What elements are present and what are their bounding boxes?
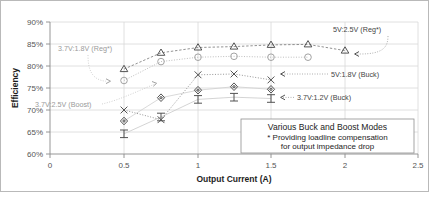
annotation-5V-1.8V-Buck-label: 5V:1.8V (Buck) — [331, 70, 379, 79]
annotation-3.7V-1.8V-Reg-arrow — [106, 79, 111, 84]
series-3.7V-1.8V-Reg — [121, 53, 312, 84]
x-tick-label-2.5: 2.5 — [412, 161, 424, 170]
marker-x-group — [121, 71, 275, 124]
x-tick-label-2: 2 — [343, 161, 348, 170]
y-tick-label-85: 85% — [27, 40, 43, 49]
note-box: Various Buck and Boost Modes * Providing… — [241, 119, 414, 153]
annotation-5V-2.5V-Reg-leader — [356, 36, 388, 54]
annotation-3.7V-2.5V-Boost-label: 3.7V:2.5V (Boost) — [35, 100, 91, 109]
y-tick-label-65: 65% — [27, 128, 43, 137]
x-tick-label-0: 0 — [48, 161, 53, 170]
annotation-5V-2.5V-Reg-label: 5V:2.5V (Reg*) — [333, 25, 381, 34]
chart-screenshot: 90% 85% 80% 75% 70% 65% 60% 0 0.5 1 1.5 … — [0, 0, 430, 206]
y-tick-label-90: 90% — [27, 18, 43, 27]
y-axis-title: Efficiency — [10, 68, 20, 108]
marker-diamond-group — [120, 83, 274, 125]
x-tick-label-1.5: 1.5 — [265, 161, 277, 170]
annotation-3.7V-1.2V-Buck-label: 3.7V:1.2V (Buck) — [297, 93, 351, 102]
y-axis-ticks — [46, 22, 50, 154]
y-tick-label-60: 60% — [27, 150, 43, 159]
annotation-3.7V-1.8V-Reg-leader — [88, 55, 106, 81]
series-3.7V-2.5V-Boost — [121, 71, 275, 124]
annotation-3.7V-2.5V-Boost-arrow — [152, 82, 157, 87]
note-box-title: Various Buck and Boost Modes — [268, 122, 387, 132]
annotation-3.7V-1.2V-Buck-arrow — [281, 95, 285, 100]
x-axis-title: Output Current (A) — [196, 174, 271, 184]
x-tick-label-1: 1 — [196, 161, 201, 170]
series-5V-1.8V-Buck — [120, 83, 274, 125]
note-box-line-3: for output impedance drop — [281, 142, 375, 151]
annotation-3.7V-1.8V-Reg-label: 3.7V:1.8V (Reg*) — [58, 44, 112, 53]
y-tick-label-80: 80% — [27, 62, 43, 71]
note-box-line-2: * Providing loadline compensation — [267, 133, 388, 142]
x-axis-ticks — [50, 154, 418, 158]
y-tick-label-75: 75% — [27, 84, 43, 93]
x-tick-label-0.5: 0.5 — [118, 161, 130, 170]
efficiency-vs-output-current-chart: 90% 85% 80% 75% 70% 65% 60% 0 0.5 1 1.5 … — [0, 0, 430, 206]
annotation-3.7V-2.5V-Boost-leader — [102, 84, 155, 104]
marker-circle-group — [121, 53, 312, 84]
annotation-5V-2.5V-Reg-arrow — [355, 52, 359, 57]
